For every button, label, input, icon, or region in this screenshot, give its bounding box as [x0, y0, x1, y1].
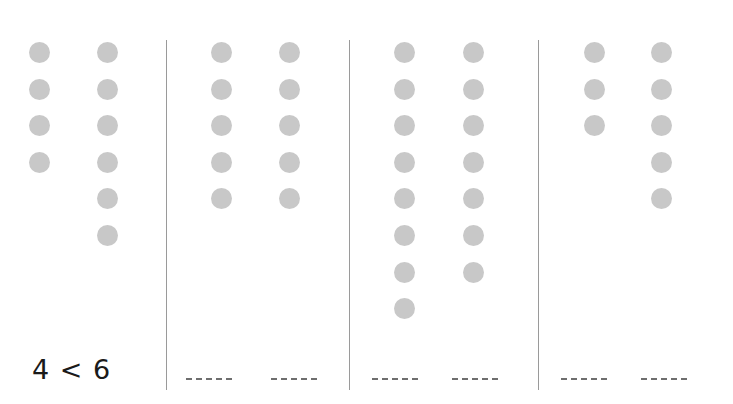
counter-dot	[394, 79, 415, 100]
counter-dot	[279, 42, 300, 63]
answer-text-group-1: 4 < 6	[32, 354, 111, 385]
counter-dot	[211, 79, 232, 100]
counter-dot	[394, 115, 415, 136]
group-divider	[538, 40, 539, 390]
counter-dot	[584, 79, 605, 100]
counter-dot	[394, 42, 415, 63]
dot-column-right-group-1	[97, 42, 119, 262]
answer-blank[interactable]	[561, 378, 607, 380]
counter-dot	[394, 225, 415, 246]
dot-column-right-group-4	[651, 42, 673, 225]
counter-dot	[651, 152, 672, 173]
counter-dot	[394, 262, 415, 283]
counter-dot	[394, 298, 415, 319]
group-divider	[349, 40, 350, 390]
dot-column-right-group-2	[279, 42, 301, 225]
answer-blank[interactable]	[372, 378, 418, 380]
answer-blank[interactable]	[641, 378, 687, 380]
counter-dot	[584, 115, 605, 136]
answer-blank[interactable]	[271, 378, 317, 380]
counter-dot	[463, 115, 484, 136]
counter-dot	[463, 42, 484, 63]
dot-column-left-group-1	[29, 42, 51, 188]
counter-dot	[29, 152, 50, 173]
dot-column-left-group-4	[584, 42, 606, 152]
counter-dot	[97, 42, 118, 63]
counter-dot	[463, 79, 484, 100]
counter-dot	[211, 115, 232, 136]
counter-dot	[211, 152, 232, 173]
counter-dot	[211, 188, 232, 209]
dot-column-left-group-2	[211, 42, 233, 225]
counter-dot	[463, 225, 484, 246]
counter-dot	[463, 152, 484, 173]
counter-dot	[394, 188, 415, 209]
counter-dot	[651, 42, 672, 63]
group-divider	[166, 40, 167, 390]
counter-dot	[211, 42, 232, 63]
counter-dot	[97, 152, 118, 173]
counter-dot	[279, 188, 300, 209]
counter-dot	[97, 225, 118, 246]
counter-dot	[279, 115, 300, 136]
counter-dot	[97, 115, 118, 136]
counter-dot	[651, 115, 672, 136]
counter-dot	[97, 79, 118, 100]
counter-dot	[97, 188, 118, 209]
counter-dot	[651, 188, 672, 209]
counter-dot	[463, 188, 484, 209]
counter-dot	[29, 115, 50, 136]
counter-dot	[29, 79, 50, 100]
dot-column-left-group-3	[394, 42, 416, 335]
dot-column-right-group-3	[463, 42, 485, 298]
counter-dot	[584, 42, 605, 63]
answer-blank[interactable]	[452, 378, 498, 380]
counter-dot	[29, 42, 50, 63]
answer-blank[interactable]	[186, 378, 232, 380]
counter-dot	[394, 152, 415, 173]
counter-dot	[279, 79, 300, 100]
counter-dot	[279, 152, 300, 173]
counter-dot	[463, 262, 484, 283]
counter-dot	[651, 79, 672, 100]
